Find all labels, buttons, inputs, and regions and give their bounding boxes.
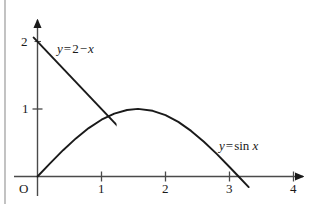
curve-label-linear-minus: −	[79, 41, 88, 56]
curve-label-sine-y: y	[219, 138, 225, 153]
curve-label-linear: y=2−x	[57, 42, 94, 55]
x-tick-label-1: 1	[98, 182, 105, 195]
x-tick-label-3: 3	[226, 182, 233, 195]
curve-y-equals-sin-x	[38, 109, 249, 187]
curve-label-linear-y: y	[57, 41, 63, 56]
origin-label: O	[19, 182, 28, 195]
curve-label-sine-function: sin	[234, 138, 249, 153]
line-y-equals-2-minus-x	[33, 37, 220, 204]
curve-label-linear-equals: =	[63, 41, 72, 56]
y-tick-label-2: 2	[21, 35, 28, 48]
curve-label-sine-equals: =	[225, 138, 234, 153]
curve-label-sine: y=sin x	[219, 139, 258, 152]
curve-label-linear-constant: 2	[72, 41, 79, 56]
x-tick-label-4: 4	[290, 182, 297, 195]
curve-label-sine-x: x	[253, 138, 259, 153]
plot-canvas	[0, 0, 325, 204]
curve-label-linear-x: x	[88, 41, 94, 56]
y-tick-label-1: 1	[22, 102, 29, 115]
x-tick-label-2: 2	[162, 182, 169, 195]
figure-container: 2 1 O 1 2 3 4 y=2−x y=sin x	[0, 0, 325, 204]
